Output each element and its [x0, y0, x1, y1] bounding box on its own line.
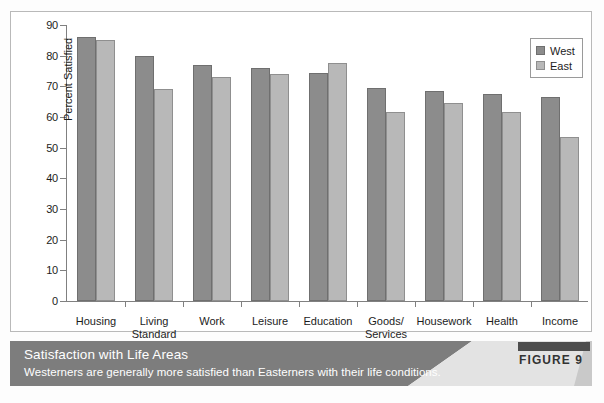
bar-west — [77, 37, 96, 301]
bar-west — [367, 88, 386, 301]
figure-badge-label: FIGURE 9 — [518, 352, 584, 367]
bar-group — [483, 25, 521, 301]
y-axis-tick-label: 10 — [46, 264, 58, 276]
x-axis-tick — [241, 301, 242, 307]
x-axis-tick — [299, 301, 300, 307]
y-axis-tick-label: 60 — [46, 111, 58, 123]
x-axis-tick — [473, 301, 474, 307]
x-axis-label: Income — [531, 315, 589, 328]
bar-west — [309, 73, 328, 301]
x-axis-label: Goods/ Services — [357, 315, 415, 340]
legend-label-west: West — [550, 45, 575, 57]
bar-east — [502, 112, 521, 301]
bar-west — [483, 94, 502, 301]
x-axis-tick — [125, 301, 126, 307]
x-axis-label: Housework — [415, 315, 473, 328]
bar-east — [270, 74, 289, 301]
bars-layer — [67, 25, 588, 301]
bar-group — [251, 25, 289, 301]
bar-east — [212, 77, 231, 301]
figure-badge-bar — [518, 342, 590, 351]
y-axis-tick-label: 50 — [46, 142, 58, 154]
legend-item-west: West — [536, 43, 575, 58]
x-axis-line — [66, 301, 588, 302]
y-axis-tick-label: 80 — [46, 50, 58, 62]
bar-east — [154, 89, 173, 301]
bar-west — [251, 68, 270, 301]
y-axis-tick-label: 0 — [52, 295, 58, 307]
bar-group — [367, 25, 405, 301]
chart-legend: West East — [530, 38, 583, 78]
y-axis-tick-label: 70 — [46, 80, 58, 92]
y-axis-tick — [60, 270, 66, 271]
y-axis-tick-label: 30 — [46, 203, 58, 215]
bar-group — [425, 25, 463, 301]
bar-group — [135, 25, 173, 301]
x-axis-tick — [531, 301, 532, 307]
chart-frame: 0102030405060708090 Percent Satisfied Ho… — [10, 11, 592, 332]
bar-west — [425, 91, 444, 301]
x-axis-label: Education — [299, 315, 357, 328]
x-axis-label: Health — [473, 315, 531, 328]
x-axis-label: Living Standard — [125, 315, 183, 340]
caption-title: Satisfaction with Life Areas — [24, 347, 188, 362]
x-axis-tick — [415, 301, 416, 307]
x-axis-tick — [357, 301, 358, 307]
legend-item-east: East — [536, 58, 575, 73]
x-axis-label: Housing — [67, 315, 125, 328]
plot-area: 0102030405060708090 Percent Satisfied — [66, 25, 588, 301]
bar-group — [77, 25, 115, 301]
y-axis-tick — [60, 301, 66, 302]
y-axis-tick-label: 40 — [46, 172, 58, 184]
legend-label-east: East — [550, 60, 572, 72]
bar-west — [541, 97, 560, 301]
figure-container: 0102030405060708090 Percent Satisfied Ho… — [0, 0, 604, 403]
x-axis-label: Work — [183, 315, 241, 328]
caption-banner: Satisfaction with Life Areas Westerners … — [10, 341, 592, 386]
bar-group — [193, 25, 231, 301]
bar-east — [444, 103, 463, 301]
bar-east — [386, 112, 405, 301]
legend-swatch-west-icon — [536, 46, 545, 55]
x-axis-tick — [183, 301, 184, 307]
legend-swatch-east-icon — [536, 61, 545, 70]
y-axis-tick-label: 90 — [46, 19, 58, 31]
bar-west — [135, 56, 154, 301]
x-axis-label: Leisure — [241, 315, 299, 328]
bar-east — [96, 40, 115, 301]
bar-east — [560, 137, 579, 301]
bar-east — [328, 63, 347, 301]
y-axis-tick — [60, 209, 66, 210]
y-axis-tick-labels: 0102030405060708090 — [18, 25, 58, 301]
bar-group — [309, 25, 347, 301]
y-axis-tick — [60, 25, 66, 26]
bar-west — [193, 65, 212, 301]
figure-badge: FIGURE 9 — [518, 342, 590, 367]
y-axis-tick — [60, 240, 66, 241]
y-axis-tick — [60, 178, 66, 179]
y-axis-tick — [60, 148, 66, 149]
y-axis-tick-label: 20 — [46, 234, 58, 246]
caption-subtitle: Westerners are generally more satisfied … — [24, 366, 441, 378]
